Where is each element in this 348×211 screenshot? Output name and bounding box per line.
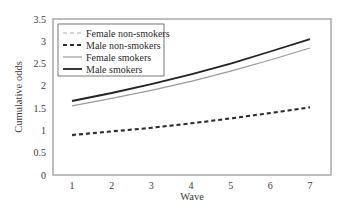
y-axis-label: Cumulative odds (13, 61, 24, 132)
y-tick-label: 3.5 (34, 14, 47, 25)
line-chart: 00.511.522.533.5 1234567 Cumulative odds… (0, 0, 348, 211)
y-tick-label: 2 (41, 80, 46, 91)
y-tick-label: 1.5 (34, 103, 47, 114)
x-tick-label: 5 (228, 180, 233, 191)
x-tick-label: 6 (268, 180, 273, 191)
x-tick-label: 3 (149, 180, 154, 191)
legend-label: Female smokers (86, 52, 151, 63)
legend-label: Male smokers (86, 64, 142, 75)
x-axis-label: Wave (180, 191, 204, 202)
y-tick-label: 1 (41, 125, 46, 136)
legend-label: Male non-smokers (86, 40, 161, 51)
y-tick-label: 3 (41, 36, 46, 47)
x-tick-label: 4 (189, 180, 194, 191)
x-tick-label: 1 (70, 180, 75, 191)
x-tick-label: 7 (308, 180, 313, 191)
y-tick-label: 0.5 (34, 147, 47, 158)
y-tick-label: 0 (41, 170, 46, 181)
y-tick-label: 2.5 (34, 58, 47, 69)
legend: Female non-smokersMale non-smokersFemale… (58, 24, 170, 76)
legend-label: Female non-smokers (86, 28, 170, 39)
y-axis-ticks: 00.511.522.533.5 (34, 14, 47, 181)
x-tick-label: 2 (109, 180, 114, 191)
x-axis-ticks: 1234567 (70, 180, 313, 191)
series-line-male-non-smokers (72, 107, 310, 135)
